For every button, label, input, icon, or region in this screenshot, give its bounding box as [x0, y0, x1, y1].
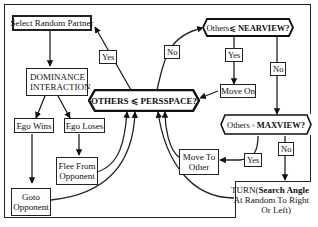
select-random-partner-node: Select Random Partner — [12, 15, 92, 31]
nearview-yes-label: Yes — [225, 48, 243, 62]
turn-line3-text: Or Left) — [261, 205, 309, 215]
goto-line1-text: Goto — [22, 192, 40, 202]
nearview-left-text: Others — [206, 23, 229, 33]
maxview-yes-label: Yes — [244, 153, 262, 167]
perspace-right-text: PERSSPACE? — [141, 96, 197, 106]
move-to-line1-text: Move To — [183, 152, 215, 162]
nearview-no-label: No — [270, 62, 286, 76]
flee-line1-text: Flee From — [58, 161, 95, 171]
maxview-no-label: No — [278, 142, 294, 156]
nearview-text: Others⩽ NEARVIEW? — [206, 23, 289, 33]
interaction-text: INTERACTION — [30, 82, 91, 92]
goto-line2-text: Opponent — [13, 202, 49, 212]
perspace-no-label: No — [164, 45, 180, 59]
less-equal-symbol: ⩽ — [229, 24, 236, 33]
turn-line2-text: At Random To Right — [234, 195, 309, 205]
select-random-partner-text: Select Random Partner — [11, 18, 94, 28]
ego-loses-text: Ego Loses — [66, 121, 104, 131]
maxview-text: Others ^ MAXVIEW? — [227, 120, 305, 130]
nearview-decision-node: Others⩽ NEARVIEW? — [202, 18, 294, 37]
flee-from-opponent-node: Flee From Opponent — [56, 157, 98, 185]
turn-line1: TURN(Search Angle — [231, 185, 309, 195]
ego-wins-text: Ego Wins — [16, 121, 51, 131]
nearview-right-text: NEARVIEW? — [238, 23, 290, 33]
maxview-left-text: Others — [227, 120, 250, 130]
perspace-yes-label: Yes — [99, 50, 117, 64]
maxview-right-text: MAXVIEW? — [257, 120, 305, 130]
perspace-text: OTHERS ⩽ PERSSPACE? — [91, 96, 197, 106]
maxview-decision-node: Others ^ MAXVIEW? — [220, 114, 312, 135]
ego-loses-node: Ego Loses — [64, 118, 105, 133]
move-on-node: Move On — [220, 84, 256, 98]
move-to-other-node: Move To Other — [179, 149, 219, 175]
dominance-interaction-node: DOMINANCE INTERACTION — [26, 68, 88, 96]
less-equal-symbol: ⩽ — [131, 96, 139, 106]
turn-prefix-text: TURN( — [231, 185, 259, 195]
caret-symbol: ^ — [252, 123, 255, 129]
move-on-text: Move On — [221, 86, 255, 96]
move-to-line2-text: Other — [189, 162, 210, 172]
dominance-text: DOMINANCE — [30, 72, 85, 82]
goto-opponent-node: Goto Opponent — [11, 188, 51, 216]
ego-wins-node: Ego Wins — [14, 118, 54, 133]
search-angle-text: Search Angle — [258, 185, 309, 195]
turn-search-angle-node: TURN(Search Angle At Random To Right Or … — [235, 181, 311, 218]
perspace-left-text: OTHERS — [91, 96, 129, 106]
flee-line2-text: Opponent — [59, 171, 95, 181]
perspace-decision-node: OTHERS ⩽ PERSSPACE? — [88, 89, 200, 112]
